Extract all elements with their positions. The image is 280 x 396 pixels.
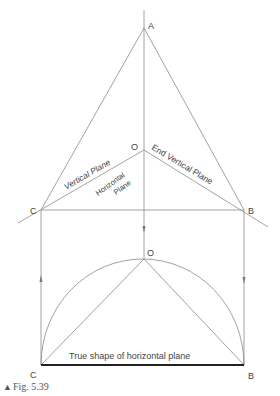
- point-label-a: A: [148, 21, 154, 31]
- point-label-b-top: B: [248, 206, 254, 216]
- end-vertical-plane-label: End Vertical Plane: [150, 142, 215, 186]
- point-label-c-bottom: C: [30, 370, 37, 380]
- down-arrow-icon: [143, 226, 146, 233]
- true-shape-label: True shape of horizontal plane: [69, 351, 190, 361]
- point-label-c-top: C: [30, 206, 37, 216]
- point-label-o-top: O: [131, 142, 138, 152]
- edge-a-b: [144, 28, 244, 210]
- figure-caption: Fig. 5.39: [13, 381, 49, 392]
- point-label-b-bottom: B: [248, 371, 254, 381]
- caption-marker-icon: ▲: [3, 382, 12, 392]
- true-edge-o-c: [41, 259, 144, 365]
- true-edge-o-b: [144, 259, 244, 365]
- semicircle-arc: [41, 259, 244, 365]
- up-arrow-icon: [40, 275, 43, 282]
- down-arrow-icon: [243, 277, 246, 284]
- point-label-o-bottom: O: [147, 248, 154, 258]
- projection-diagram: A O C B O C B Vertical Plane End Vertica…: [0, 0, 280, 396]
